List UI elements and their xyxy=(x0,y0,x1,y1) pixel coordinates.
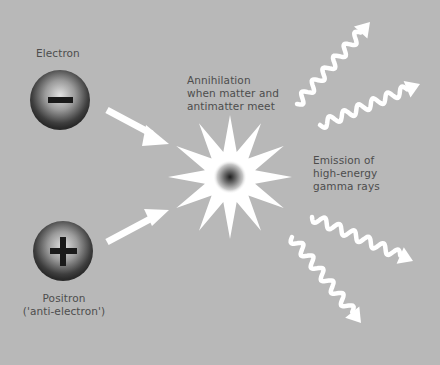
emission-line-2: high-energy xyxy=(313,167,380,180)
gamma-ray-2 xyxy=(320,87,407,128)
positron-label: Positron ('anti-electron') xyxy=(22,292,106,318)
electron-label-text: Electron xyxy=(36,47,80,60)
positron-arrow xyxy=(107,209,169,242)
annihilation-line-2: when matter and xyxy=(187,87,279,100)
electron-label: Electron xyxy=(36,47,80,60)
annihilation-label: Annihilation when matter and antimatter … xyxy=(187,74,279,113)
emission-label: Emission of high-energy gamma rays xyxy=(313,154,380,193)
emission-line-3: gamma rays xyxy=(313,180,380,193)
annihilation-star xyxy=(168,115,292,239)
gamma-ray-4 xyxy=(291,237,354,312)
emission-line-1: Emission of xyxy=(313,154,380,167)
minus-icon xyxy=(48,97,73,103)
electron-particle xyxy=(30,70,90,130)
gamma-ray-3 xyxy=(312,217,400,255)
positron-label-line1: Positron xyxy=(22,292,106,305)
annihilation-line-3: antimatter meet xyxy=(187,100,279,113)
positron-label-line2: ('anti-electron') xyxy=(22,305,106,318)
electron-arrow xyxy=(107,110,169,146)
annihilation-line-1: Annihilation xyxy=(187,74,279,87)
positron-particle xyxy=(33,221,93,281)
gamma-ray-1 xyxy=(297,32,361,105)
